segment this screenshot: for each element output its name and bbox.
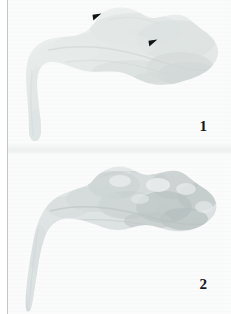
panel-1-number: 1 (200, 119, 208, 134)
panel-2: 2 (8, 155, 231, 314)
panel-1-arrowhead-upper-left (92, 13, 102, 22)
panel-1-specimen-image (8, 0, 231, 150)
panel-1: 1 (8, 0, 231, 150)
figure-root: 1 (0, 0, 231, 314)
panel-2-number: 2 (200, 277, 208, 292)
panel-1-arrowhead-center-right (148, 39, 158, 48)
panel-2-specimen-image (8, 155, 231, 314)
